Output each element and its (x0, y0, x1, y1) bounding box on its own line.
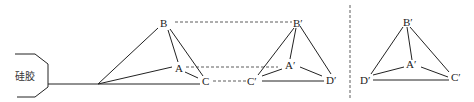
vertex-a-prime: A′ (285, 59, 295, 71)
proj-vertex-b-prime: B′ (403, 16, 413, 28)
figure-left: B A C (98, 17, 209, 87)
proj-vertex-c-prime: C′ (451, 71, 461, 83)
proj-vertex-d-prime: D′ (360, 74, 370, 86)
vertex-c-prime: C′ (247, 75, 257, 87)
figure-middle: B′ A′ C′ D′ (247, 17, 336, 87)
diagram-svg: 硅胶 B A C B′ (0, 0, 474, 102)
silica-gel-block: 硅胶 (15, 54, 48, 97)
vertex-b: B (160, 17, 167, 29)
figure-right: B′ A′ D′ C′ (360, 16, 461, 86)
silica-gel-label: 硅胶 (15, 70, 35, 82)
vertex-b-prime: B′ (293, 17, 303, 29)
vertex-a: A (175, 62, 183, 74)
proj-vertex-a-prime: A′ (406, 58, 416, 70)
vertex-d-prime: D′ (326, 74, 336, 86)
diagram-canvas: 硅胶 B A C B′ (0, 0, 474, 102)
vertex-c: C (202, 75, 209, 87)
